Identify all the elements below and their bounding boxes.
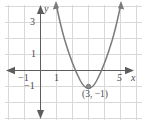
y-tick-label-3: 3	[30, 17, 35, 27]
x-axis-name: x	[131, 73, 135, 83]
graph-figure: 3 1 −1 −1 1 5 y x (3, −1)	[0, 0, 145, 124]
x-tick-label-5: 5	[117, 73, 122, 83]
coordinate-plane	[0, 0, 145, 124]
x-tick-label-1: 1	[54, 73, 59, 83]
x-tick-label-neg1: −1	[18, 73, 29, 83]
y-tick-label-1: 1	[31, 49, 36, 59]
grid-lines	[5, 5, 142, 120]
y-axis-name: y	[44, 4, 48, 14]
vertex-annotation: (3, −1)	[82, 90, 108, 100]
